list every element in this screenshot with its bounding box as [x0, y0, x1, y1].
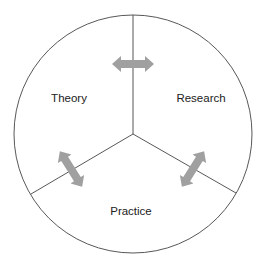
double-arrow-icon: [53, 147, 89, 191]
cycle-diagram: [0, 0, 269, 265]
section-label-research: Research: [176, 92, 225, 104]
double-arrow-icon: [175, 147, 211, 191]
section-label-theory: Theory: [51, 92, 87, 104]
section-label-practice: Practice: [110, 205, 152, 217]
